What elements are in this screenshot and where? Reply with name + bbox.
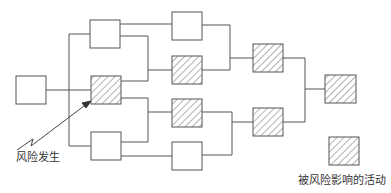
activity-node <box>172 12 202 40</box>
activity-node <box>90 20 120 48</box>
affected-activity-node <box>172 56 202 84</box>
activity-node <box>172 142 202 170</box>
affected-activity-node <box>325 75 356 103</box>
risk-occurrence-label: 风险发生 <box>16 148 60 164</box>
risk-arrow <box>17 101 91 150</box>
affected-activity-node <box>253 108 283 136</box>
affected-activity-node <box>253 44 283 72</box>
affected-activity-node <box>172 99 202 127</box>
activity-node <box>16 76 46 104</box>
affected-activity-node <box>91 76 121 104</box>
risk-network-diagram <box>0 0 391 193</box>
activity-node <box>91 132 121 160</box>
legend-label: 被风险影响的活动 <box>298 171 386 187</box>
legend-swatch <box>329 137 359 165</box>
